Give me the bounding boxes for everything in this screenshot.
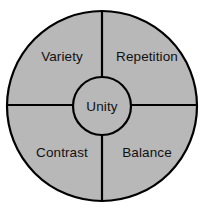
sector-label-lower-right: Balance — [122, 145, 172, 160]
design-principles-wheel-diagram: Variety Repetition Contrast Balance Unit… — [0, 0, 205, 212]
hub-label-unity: Unity — [86, 99, 117, 114]
wheel-svg-canvas: Variety Repetition Contrast Balance Unit… — [0, 0, 205, 212]
sector-label-lower-left: Contrast — [36, 145, 88, 160]
sector-label-upper-right: Repetition — [116, 49, 178, 64]
sector-label-upper-left: Variety — [41, 49, 83, 64]
